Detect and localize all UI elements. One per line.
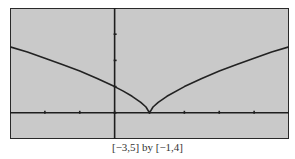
axes	[10, 8, 289, 139]
function-curve	[10, 47, 289, 113]
window-caption: [−3,5] by [−1,4]	[0, 141, 295, 153]
graph-plot	[10, 8, 289, 139]
